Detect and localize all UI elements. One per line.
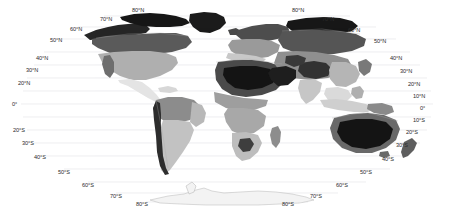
lat-label: 50°N (50, 38, 62, 44)
lat-label: 70°S (110, 194, 122, 200)
region-india (298, 79, 322, 104)
lat-label: 50°N (374, 39, 386, 45)
lat-label: 80°S (136, 202, 148, 208)
lat-label: 50°S (360, 170, 372, 176)
region-boreal-eurasia (278, 30, 366, 55)
region-south-america-ne (190, 102, 206, 127)
world-map-canvas (0, 0, 453, 216)
lat-label: 60°N (348, 28, 360, 34)
region-greenland (189, 12, 226, 33)
lat-label: 10°S (413, 118, 425, 124)
lat-label: 40°S (34, 155, 46, 161)
lat-label: 40°N (390, 56, 402, 62)
lat-label: 40°N (36, 56, 48, 62)
region-new-guinea (367, 103, 394, 115)
region-philippines (351, 86, 364, 99)
lat-label: 20°N (408, 82, 420, 88)
lat-label: 60°N (70, 27, 82, 33)
region-indonesia (320, 99, 374, 112)
lat-label: 60°S (336, 183, 348, 189)
lat-label: 30°N (26, 68, 38, 74)
lat-label: 20°S (406, 130, 418, 136)
lat-label: 20°N (18, 81, 30, 87)
world-map-figure: 50°N 40°N 30°N 20°N 0° 20°S 30°S 40°S 50… (0, 0, 453, 216)
lat-label: 50°S (58, 170, 70, 176)
region-congo-basin (224, 108, 266, 135)
lat-label: 30°S (396, 143, 408, 149)
region-madagascar (270, 126, 281, 148)
lat-label: 0° (12, 102, 17, 108)
landmasses (84, 12, 417, 205)
lat-label: 30°S (22, 141, 34, 147)
region-central-america (118, 79, 160, 102)
lat-label: 80°N (132, 8, 144, 14)
lat-label: 10°N (413, 94, 425, 100)
lat-label: 30°N (400, 69, 412, 75)
lat-label: 70°N (322, 17, 334, 23)
lat-label: 80°N (292, 8, 304, 14)
lat-label: 0° (420, 106, 425, 112)
lat-label: 70°N (100, 17, 112, 23)
lat-label: 80°S (282, 202, 294, 208)
lat-label: 70°S (310, 194, 322, 200)
region-japan (358, 59, 372, 76)
region-caribbean (158, 86, 178, 93)
lat-label: 20°S (13, 128, 25, 134)
region-east-asia (329, 62, 360, 87)
lat-label: 40°S (382, 157, 394, 163)
lat-label: 60°S (82, 183, 94, 189)
